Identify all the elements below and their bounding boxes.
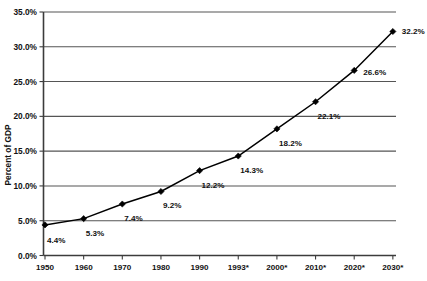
data-point-label-1990: 12.2% (202, 181, 225, 190)
data-series-line (45, 31, 393, 224)
y-tick-label: 5.0% (18, 216, 38, 226)
data-point-label-2000*: 18.2% (279, 139, 302, 148)
x-tick-label: 1960 (75, 263, 94, 272)
x-tick-label: 1970 (113, 263, 132, 272)
y-tick-label: 35.0% (13, 7, 37, 17)
x-tick-label: 1950 (36, 263, 55, 272)
y-tick-label: 0.0% (18, 251, 38, 261)
data-point-markers-group (42, 28, 396, 228)
data-point-label-1970: 7.4% (124, 214, 142, 223)
x-tick-label: 1990 (191, 263, 210, 272)
data-point-label-2030*: 32.2% (402, 27, 425, 36)
data-point-label-1960: 5.3% (86, 229, 104, 238)
data-point-marker-1970 (119, 201, 125, 207)
data-point-label-1950: 4.4% (47, 236, 65, 245)
data-point-label-1980: 9.2% (163, 201, 181, 210)
x-axis-tick-labels-group: 195019601970198019901993*2000*2010*2020*… (36, 263, 404, 272)
x-tick-label: 2020* (344, 263, 366, 272)
data-point-marker-1980 (158, 188, 164, 194)
data-point-label-2010*: 22.1% (318, 112, 341, 121)
data-point-labels-group: 4.4%5.3%7.4%9.2%12.2%14.3%18.2%22.1%26.6… (47, 27, 425, 244)
y-tick-label: 15.0% (13, 146, 37, 156)
y-tick-label: 30.0% (13, 42, 37, 52)
line-chart-figure: 0.0%5.0%10.0%15.0%20.0%25.0%30.0%35.0% 1… (0, 0, 427, 281)
data-point-label-2020*: 26.6% (363, 68, 386, 77)
y-tick-label: 10.0% (13, 181, 37, 191)
x-tick-label: 2030* (382, 263, 404, 272)
chart-container: 0.0%5.0%10.0%15.0%20.0%25.0%30.0%35.0% 1… (0, 0, 427, 281)
x-tick-label: 2010* (305, 263, 327, 272)
y-axis-tick-labels-group: 0.0%5.0%10.0%15.0%20.0%25.0%30.0%35.0% (13, 7, 37, 261)
y-tick-label: 25.0% (13, 77, 37, 87)
y-axis-title: Percent of GDP (3, 124, 13, 185)
x-tick-label: 2000* (266, 263, 288, 272)
data-point-marker-1990 (197, 168, 203, 174)
x-tick-label: 1993* (228, 263, 250, 272)
x-tick-label: 1980 (152, 263, 171, 272)
data-point-label-1993*: 14.3% (240, 166, 263, 175)
y-tick-label: 20.0% (13, 111, 37, 121)
